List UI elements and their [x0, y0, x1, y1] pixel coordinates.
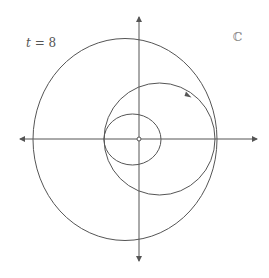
complex-plane-diagram: t = 8 ℂ [0, 0, 269, 278]
time-value: 8 [49, 36, 57, 50]
time-label: t = 8 [26, 36, 56, 50]
complex-plane-label: ℂ [233, 30, 243, 44]
time-equals: = [31, 36, 49, 50]
origin-marker [137, 137, 141, 141]
